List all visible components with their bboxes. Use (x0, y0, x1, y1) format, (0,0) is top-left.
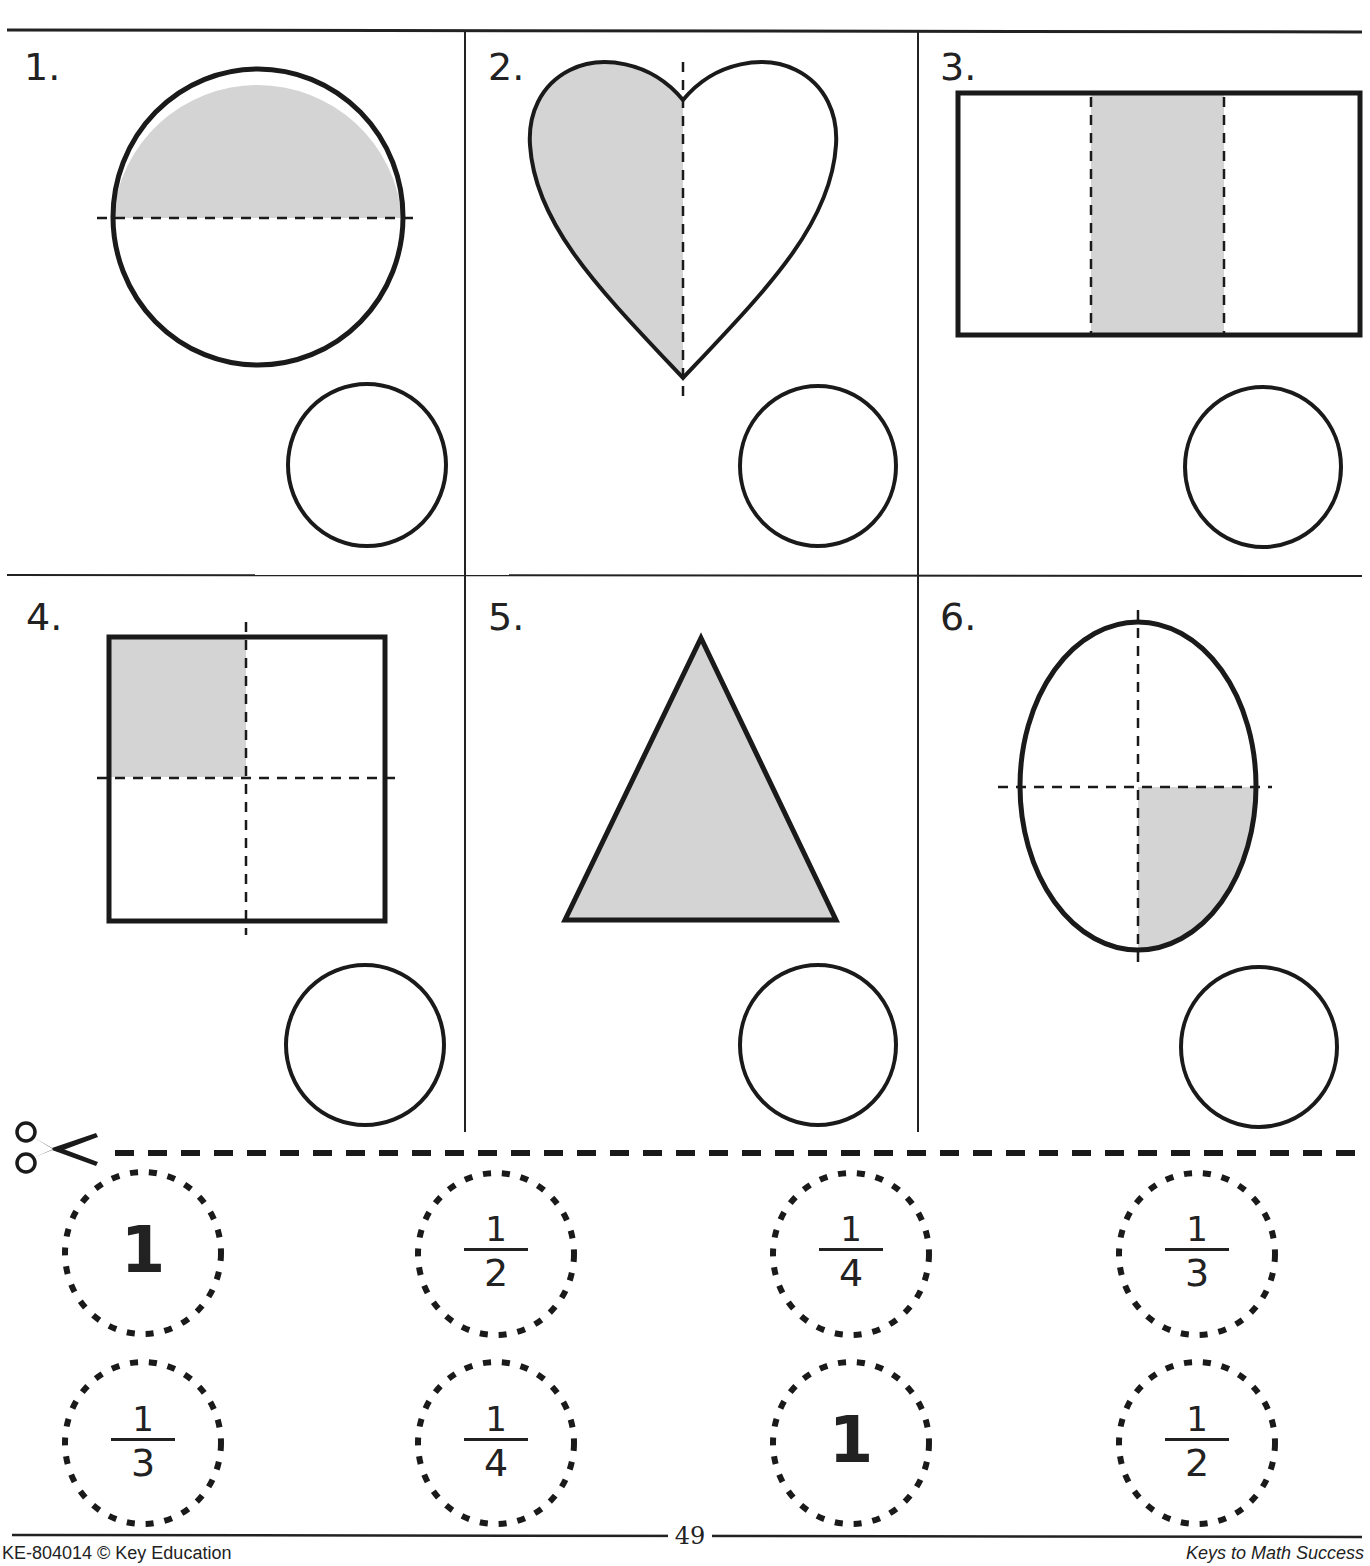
answer-circle-3[interactable] (1185, 387, 1341, 547)
cutout-fraction-r2c4: 1 2 (1157, 1402, 1237, 1483)
problem-6-oval (998, 610, 1337, 1127)
problem-number-4: 4. (26, 598, 62, 636)
numerator: 1 (1157, 1402, 1237, 1436)
denominator: 3 (103, 1443, 183, 1483)
numerator: 1 (456, 1212, 536, 1246)
denominator: 3 (1157, 1253, 1237, 1293)
problem-number-6: 6. (940, 598, 976, 636)
problem-number-5: 5. (488, 598, 524, 636)
problem-3-rectangle (958, 93, 1360, 547)
problem-number-3: 3. (940, 48, 976, 86)
cutout-fraction-r2c2: 1 4 (456, 1402, 536, 1483)
answer-circle-6[interactable] (1181, 967, 1337, 1127)
problem-number-2: 2. (488, 48, 524, 86)
problem-1-circle (97, 69, 446, 546)
cutout-circles (65, 1172, 1275, 1524)
cutout-fraction-r1c4: 1 3 (1157, 1212, 1237, 1293)
answer-circle-4[interactable] (286, 965, 444, 1125)
numerator: 1 (1157, 1212, 1237, 1246)
denominator: 4 (456, 1443, 536, 1483)
denominator: 2 (456, 1253, 536, 1293)
problem-5-triangle (565, 638, 896, 1125)
denominator: 2 (1157, 1443, 1237, 1483)
numerator: 1 (456, 1402, 536, 1436)
numerator: 1 (811, 1212, 891, 1246)
numerator: 1 (103, 1402, 183, 1436)
problem-number-1: 1. (24, 48, 60, 86)
cutout-label-r2c3: 1 (811, 1408, 891, 1472)
answer-circle-1[interactable] (288, 384, 446, 546)
page-number: 49 (668, 1522, 712, 1550)
worksheet-graphics (0, 0, 1370, 1566)
answer-circle-2[interactable] (740, 386, 896, 546)
cutout-fraction-r1c3: 1 4 (811, 1212, 891, 1293)
cutout-fraction-r1c2: 1 2 (456, 1212, 536, 1293)
cutout-label-r1c1: 1 (103, 1218, 183, 1282)
answer-circle-5[interactable] (740, 965, 896, 1125)
cutout-fraction-r2c1: 1 3 (103, 1402, 183, 1483)
scissors-icon (17, 1123, 98, 1172)
footer-book-title: Keys to Math Success (1186, 1543, 1364, 1564)
footer-copyright: KE-804014 © Key Education (2, 1543, 231, 1564)
problem-2-heart (530, 62, 896, 546)
problem-4-square (97, 622, 444, 1125)
denominator: 4 (811, 1253, 891, 1293)
